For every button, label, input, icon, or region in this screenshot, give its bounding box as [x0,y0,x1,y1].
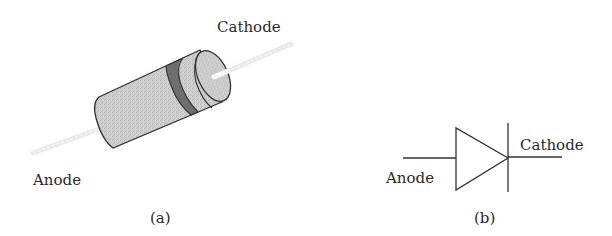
panel-a-physical-diode: Cathode Anode (a) [32,18,291,227]
panel-b-caption: (b) [474,209,495,227]
panel-a-cathode-label: Cathode [217,18,281,36]
panel-a-caption: (a) [150,209,171,227]
panel-b-anode-label: Anode [385,169,434,187]
panel-b-cathode-label: Cathode [520,136,584,154]
diode-figure: Cathode Anode (a) Cathode Anode (b) [0,0,612,236]
diode-triangle [456,128,508,190]
panel-a-anode-label: Anode [32,171,81,189]
